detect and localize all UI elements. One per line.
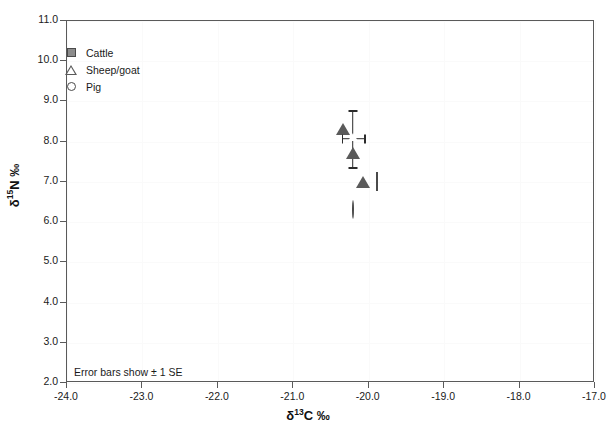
scatter-chart: 11.010.09.08.07.06.05.04.03.02.0-24.0-23…: [0, 0, 616, 437]
chart-legend: CattleSheep/goatPig: [62, 44, 140, 95]
triangle-marker-icon: [356, 159, 370, 188]
y-axis-tick-label: 5.0: [20, 254, 58, 266]
x-axis-tick: [141, 382, 142, 388]
legend-label: Sheep/goat: [86, 64, 140, 76]
y-axis-tick-label: 10.0: [20, 53, 58, 65]
gridline-horizontal: [67, 262, 593, 263]
x-axis-title: δ13C ‰: [0, 408, 616, 423]
gridline-horizontal: [67, 222, 593, 223]
data-point-sheep-goat: [356, 159, 370, 177]
gridline-vertical: [218, 21, 219, 381]
y-axis-tick-label: 2.0: [20, 375, 58, 387]
legend-item: Sheep/goat: [62, 61, 140, 78]
gridline-vertical: [444, 21, 445, 381]
x-axis-tick-label: -24.0: [36, 390, 96, 402]
triangle-marker-icon: [65, 65, 77, 75]
x-axis-tick: [368, 382, 369, 388]
x-axis-tick-label: -23.0: [111, 390, 171, 402]
gridline-horizontal: [67, 383, 593, 384]
x-axis-isotope-number: 13: [294, 407, 304, 417]
y-axis-title: δ15N ‰: [7, 136, 22, 236]
circle-marker-icon: [352, 200, 354, 219]
legend-marker: [62, 44, 80, 61]
legend-item: Cattle: [62, 44, 140, 61]
gridline-vertical: [293, 21, 294, 381]
y-axis-tick-label: 11.0: [20, 13, 58, 25]
y-axis-tick-label: 4.0: [20, 295, 58, 307]
y-axis-tick-label: 6.0: [20, 214, 58, 226]
y-axis-tick: [60, 302, 66, 303]
x-axis-tick-label: -21.0: [262, 390, 322, 402]
x-axis-tick-label: -20.0: [338, 390, 398, 402]
y-axis-element: N ‰: [7, 164, 22, 190]
data-point-cattle: [376, 173, 378, 191]
gridline-horizontal: [67, 101, 593, 102]
triangle-marker-icon: [346, 130, 360, 159]
gridline-horizontal: [67, 303, 593, 304]
x-axis-tick: [292, 382, 293, 388]
square-marker-icon: [67, 48, 76, 57]
y-axis-delta: δ: [7, 199, 22, 207]
error-bar-cap: [364, 134, 366, 143]
x-axis-tick-label: -17.0: [564, 390, 616, 402]
y-axis-isotope-number: 15: [5, 190, 15, 200]
y-axis-tick: [60, 221, 66, 222]
x-axis-tick: [519, 382, 520, 388]
gridline-vertical: [142, 21, 143, 381]
plot-area: [66, 20, 594, 382]
x-axis-tick-label: -19.0: [413, 390, 473, 402]
data-point-sheep-goat: [336, 106, 350, 124]
x-axis-tick: [217, 382, 218, 388]
y-axis-tick-label: 3.0: [20, 335, 58, 347]
y-axis-tick: [60, 261, 66, 262]
gridline-horizontal: [67, 61, 593, 62]
gridline-vertical: [520, 21, 521, 381]
legend-label: Pig: [86, 81, 101, 93]
y-axis-tick-label: 7.0: [20, 174, 58, 186]
y-axis-tick: [60, 141, 66, 142]
y-axis-tick: [60, 342, 66, 343]
legend-item: Pig: [62, 78, 140, 95]
error-bar-cap: [348, 110, 357, 112]
square-marker-icon: [376, 172, 378, 191]
y-axis-tick-label: 8.0: [20, 134, 58, 146]
gridline-horizontal: [67, 182, 593, 183]
gridline-horizontal: [67, 21, 593, 22]
x-axis-tick: [443, 382, 444, 388]
circle-marker-icon: [67, 82, 76, 91]
legend-label: Cattle: [86, 47, 113, 59]
y-axis-tick: [60, 100, 66, 101]
x-axis-element: C ‰: [304, 408, 330, 423]
y-axis-tick: [60, 20, 66, 21]
error-bar-annotation: Error bars show ± 1 SE: [74, 366, 182, 378]
y-axis-tick-label: 9.0: [20, 93, 58, 105]
x-axis-tick-label: -18.0: [489, 390, 549, 402]
y-axis-tick: [60, 181, 66, 182]
x-axis-delta: δ: [286, 408, 294, 423]
gridline-horizontal: [67, 142, 593, 143]
legend-marker: [62, 78, 80, 95]
legend-marker: [62, 61, 80, 78]
data-point-pig: [352, 201, 354, 219]
x-axis-tick-label: -22.0: [187, 390, 247, 402]
data-point-sheep-goat: [346, 130, 360, 148]
x-axis-tick: [66, 382, 67, 388]
gridline-vertical: [595, 21, 596, 381]
error-bar-cap: [342, 134, 344, 143]
gridline-horizontal: [67, 343, 593, 344]
gridline-vertical: [369, 21, 370, 381]
x-axis-tick: [594, 382, 595, 388]
